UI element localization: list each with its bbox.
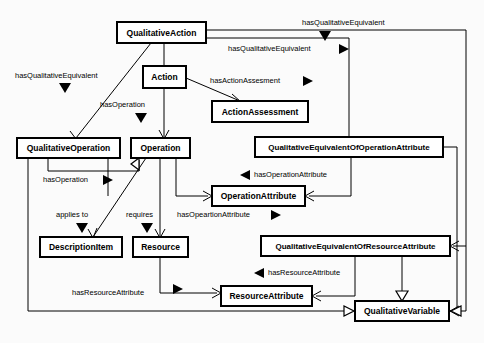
class-box-action[interactable]: Action bbox=[143, 66, 186, 88]
class-label-qualitativeaction: QualitativeAction bbox=[127, 28, 197, 38]
class-label-action: Action bbox=[151, 72, 177, 82]
generalization-qualitativevariable-to-qeresourceattribute bbox=[396, 291, 408, 301]
relation-label-hasqualitativeequivalent-qeop: hasQualitativeEquivalent bbox=[228, 44, 311, 53]
class-label-qualitativevariable: QualitativeVariable bbox=[364, 306, 440, 316]
class-label-resource: Resource bbox=[141, 242, 180, 252]
class-box-qualitativevariable[interactable]: QualitativeVariable bbox=[355, 301, 449, 321]
class-box-qualitativeequivalentofresourceattribute[interactable]: QualitativeEquivalentOfResourceAttribute bbox=[261, 236, 450, 256]
class-box-qualitativeequivalentofoperationattribute[interactable]: QualitativeEquivalentOfOperationAttribut… bbox=[255, 137, 443, 157]
class-box-resource[interactable]: Resource bbox=[133, 237, 188, 257]
marker-down-solid-applies-to bbox=[76, 223, 88, 233]
marker-down-solid-action-op bbox=[135, 113, 147, 123]
marker-down-solid-qa-qop bbox=[59, 83, 71, 93]
relation-label-hasactionassesment: hasActionAssesment bbox=[210, 76, 281, 85]
relation-label-hasresourceattribute-left: hasResourceAttribute bbox=[72, 288, 144, 297]
marker-down-solid-qa-qv bbox=[319, 31, 331, 41]
class-label-actionassessment: ActionAssessment bbox=[222, 107, 299, 117]
class-box-qualitativeoperation[interactable]: QualitativeOperation bbox=[17, 138, 120, 158]
relation-label-hasoperation-action: hasOperation bbox=[100, 100, 145, 109]
relation-label-applies-to: applies to bbox=[56, 210, 88, 219]
edge-operation-operationattribute bbox=[176, 158, 208, 196]
class-label-operationattribute: OperationAttribute bbox=[221, 191, 297, 201]
relation-label-hasresourceattribute-right: hasResourceAttribute bbox=[268, 268, 340, 277]
marker-right-solid-qa-qeop bbox=[339, 44, 349, 54]
marker-left-solid-qeop-opattr bbox=[240, 170, 250, 180]
generalization-operation-to-qualitativeoperation bbox=[131, 158, 139, 170]
class-box-resourceattribute[interactable]: ResourceAttribute bbox=[221, 286, 312, 306]
uml-class-diagram: QualitativeAction Action ActionAssessmen… bbox=[0, 0, 484, 343]
class-label-operation: Operation bbox=[140, 143, 180, 153]
relation-label-hasoperation-qualitativeoperation: hasOperation bbox=[43, 175, 88, 184]
class-label-qualitativeoperation: QualitativeOperation bbox=[27, 143, 111, 153]
relation-label-hasopeartionattribute: hasOpeartionAttribute bbox=[177, 210, 250, 219]
edge-qa-qualitativeoperation bbox=[76, 43, 151, 138]
diagram-canvas: QualitativeAction Action ActionAssessmen… bbox=[0, 0, 484, 343]
class-label-descriptionitem: DescriptionItem bbox=[49, 242, 114, 252]
edge-qeoperationattribute-qualitativevariable bbox=[443, 147, 457, 311]
class-label-qualitativeequivalentofoperationattribute: QualitativeEquivalentOfOperationAttribut… bbox=[268, 143, 430, 152]
marker-left-solid-qeres-resattr bbox=[254, 268, 264, 278]
relation-label-hasqualitativeequivalent-left: hasQualitativeEquivalent bbox=[15, 71, 98, 80]
edge-qualitativeoperation-operation bbox=[48, 158, 139, 171]
marker-down-solid-requires bbox=[141, 223, 153, 233]
class-label-qualitativeequivalentofresourceattribute: QualitativeEquivalentOfResourceAttribute bbox=[275, 242, 436, 251]
generalization-qualitativevariable-left bbox=[344, 306, 354, 316]
class-box-descriptionitem[interactable]: DescriptionItem bbox=[40, 237, 122, 257]
marker-right-solid-op-opattr bbox=[271, 210, 281, 220]
relation-label-requires: requires bbox=[126, 210, 153, 219]
relation-label-hasqualitativeequivalent-top: hasQualitativeEquivalent bbox=[302, 18, 385, 27]
marker-right-solid-action-assess bbox=[303, 76, 313, 86]
class-box-operation[interactable]: Operation bbox=[131, 138, 190, 158]
class-box-actionassessment[interactable]: ActionAssessment bbox=[212, 101, 308, 122]
class-box-qualitativeaction[interactable]: QualitativeAction bbox=[117, 22, 206, 43]
class-label-resourceattribute: ResourceAttribute bbox=[229, 291, 303, 301]
relation-label-hasoperationattribute: hasOperationAttribute bbox=[254, 170, 327, 179]
edge-resource-resourceattribute bbox=[160, 257, 217, 293]
class-box-operationattribute[interactable]: OperationAttribute bbox=[212, 186, 305, 206]
